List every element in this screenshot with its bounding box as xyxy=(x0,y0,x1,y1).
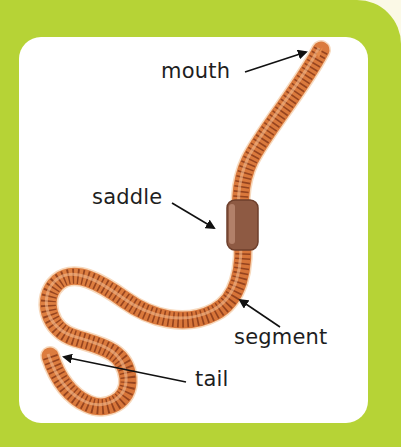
label-segment: segment xyxy=(234,327,328,348)
segment-arrow xyxy=(240,300,280,327)
worm-body xyxy=(46,47,323,407)
label-mouth: mouth xyxy=(161,61,230,82)
label-tail: tail xyxy=(195,369,229,390)
label-saddle: saddle xyxy=(92,187,162,208)
mouth-arrow xyxy=(245,52,306,72)
saddle-arrow xyxy=(172,203,214,228)
worm-saddle xyxy=(227,200,258,250)
